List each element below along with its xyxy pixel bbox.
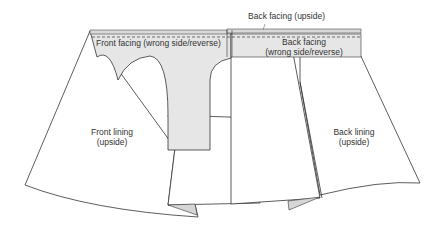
back-lining-label: Back lining (upside) xyxy=(322,127,386,147)
back-lining-label-line2: (upside) xyxy=(322,137,386,147)
waistband-back xyxy=(227,29,361,33)
back-facing-label-line1: Back facing xyxy=(256,37,352,47)
back-facing-label-line2: (wrong side/reverse) xyxy=(256,47,352,57)
back-facing-label: Back facing (wrong side/reverse) xyxy=(256,37,352,57)
front-lining-label: Front lining (upside) xyxy=(80,127,144,147)
back-lining-label-line1: Back lining xyxy=(322,127,386,137)
front-lining-label-line1: Front lining xyxy=(80,127,144,137)
front-facing-label: Front facing (wrong side/reverse) xyxy=(96,38,221,48)
front-lining-label-line2: (upside) xyxy=(80,137,144,147)
back-facing-upside-label: Back facing (upside) xyxy=(248,11,325,21)
waistband-front xyxy=(90,30,231,34)
back-lining-panel xyxy=(300,37,420,195)
sewing-diagram xyxy=(0,0,440,230)
